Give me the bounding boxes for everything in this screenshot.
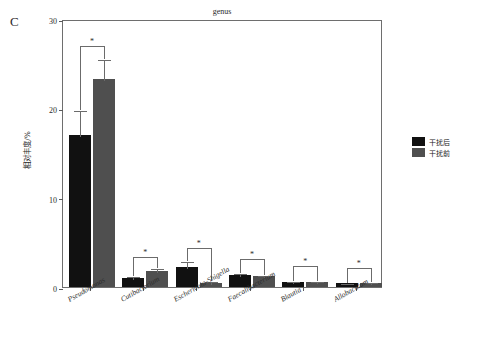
error-bar-cap: [127, 277, 140, 278]
bar-group: [276, 21, 329, 287]
significance-marker: *: [80, 39, 104, 45]
panel-label: C: [10, 14, 19, 30]
error-bar-cap: [234, 274, 247, 275]
bar-group: [330, 21, 383, 287]
significance-marker: *: [240, 252, 264, 258]
plot-area: 0102030 ****** PseudomonasCutibacteriumE…: [62, 20, 382, 288]
bar-before: [93, 79, 115, 287]
significance-marker: *: [293, 259, 317, 265]
legend-item-before-intervention: 干扰前: [412, 147, 474, 158]
legend-item-after-intervention: 干扰后: [412, 136, 474, 147]
x-label-blautia: Blautia: [279, 285, 303, 304]
bar-group: [223, 21, 276, 287]
y-tick-20: 20: [49, 106, 63, 115]
y-tick-10: 10: [49, 195, 63, 204]
error-bar-cap: [151, 269, 164, 270]
significance-marker: *: [347, 261, 371, 267]
error-bar-cap: [74, 111, 87, 112]
legend: 干扰后干扰前: [412, 136, 474, 158]
legend-swatch-after-intervention: [412, 137, 425, 146]
y-tick-0: 0: [53, 285, 63, 294]
legend-label: 干扰前: [429, 148, 450, 158]
legend-label: 干扰后: [429, 137, 450, 147]
y-tick-30: 30: [49, 17, 63, 26]
error-bar-line: [187, 262, 188, 269]
error-bar-line: [80, 111, 81, 137]
error-bar-cap: [181, 262, 194, 263]
error-bar-line: [104, 60, 105, 81]
significance-marker: *: [187, 241, 211, 247]
error-bar-cap: [98, 60, 111, 61]
significance-marker: *: [133, 250, 157, 256]
legend-swatch-before-intervention: [412, 148, 425, 157]
y-axis-title: 相对丰度/%: [21, 131, 32, 169]
bar-after: [69, 135, 91, 287]
chart-title: genus: [62, 7, 382, 16]
x-tick: [303, 287, 304, 291]
error-bar-cap: [311, 282, 324, 283]
bar-group: [63, 21, 116, 287]
figure-panel-c: C genus 相对丰度/% 0102030 ****** Pseudomona…: [0, 0, 488, 348]
error-bar-cap: [287, 282, 300, 283]
